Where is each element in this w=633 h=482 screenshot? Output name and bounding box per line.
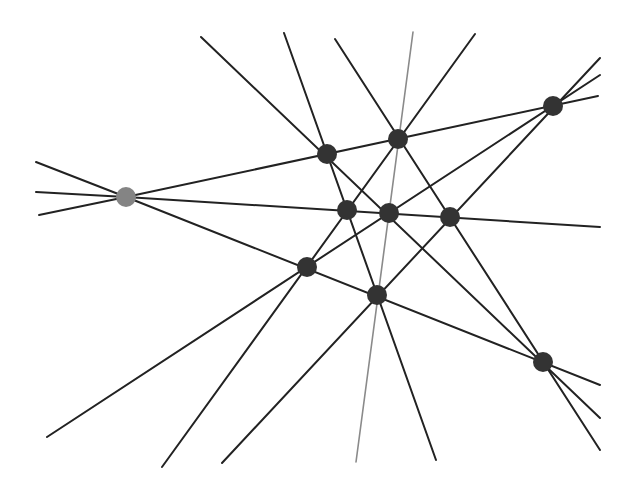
line-l6 [39,197,126,215]
node-h [297,257,317,277]
node-c [543,96,563,116]
node-i [367,285,387,305]
line-l2 [126,197,600,227]
line-l11 [162,34,475,467]
lines-group [36,32,600,467]
line-l8 [284,33,436,460]
line-l12 [47,75,600,437]
node-g [116,187,136,207]
node-d [337,200,357,220]
line-l1 [126,96,598,197]
node-e [379,203,399,223]
line-l10 [356,32,413,462]
node-b [388,129,408,149]
nodes-group [116,96,563,372]
line-arrangement-diagram [0,0,633,482]
node-f [440,207,460,227]
line-l13 [222,58,600,463]
line-l3 [126,197,600,385]
node-j [533,352,553,372]
node-a [317,144,337,164]
